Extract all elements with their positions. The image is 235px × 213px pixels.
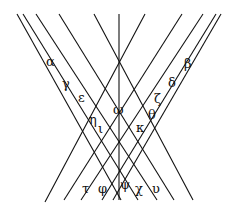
line-label: ι bbox=[98, 121, 103, 136]
diagram-line bbox=[45, 14, 145, 202]
line-label: δ bbox=[168, 75, 176, 90]
line-label: φ bbox=[98, 181, 107, 196]
line-label: η bbox=[89, 112, 97, 127]
line-label: ψ bbox=[120, 177, 130, 192]
line-label: θ bbox=[148, 107, 156, 122]
diagram-line bbox=[36, 14, 157, 200]
line-label: ε bbox=[78, 90, 85, 105]
line-label: α bbox=[46, 54, 55, 69]
line-label: χ bbox=[135, 181, 143, 196]
line-arrangement-diagram: αγεβδζωηιθκτφψχυ bbox=[0, 0, 235, 213]
diagram-line bbox=[81, 14, 203, 200]
line-label: ζ bbox=[154, 91, 161, 106]
line-label: ω bbox=[113, 102, 124, 117]
diagram-line bbox=[113, 14, 221, 200]
line-label: β bbox=[184, 56, 192, 71]
line-label: υ bbox=[152, 181, 160, 196]
line-label: γ bbox=[62, 76, 70, 91]
diagram-line bbox=[17, 14, 121, 200]
line-label: κ bbox=[136, 120, 144, 135]
line-label: τ bbox=[82, 181, 89, 196]
diagram-line bbox=[94, 14, 193, 200]
